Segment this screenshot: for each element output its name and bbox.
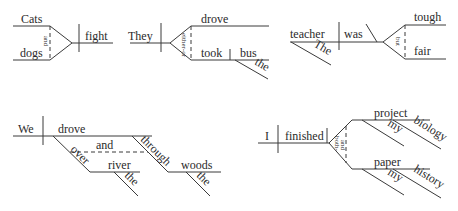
word-and: and <box>42 36 50 47</box>
fork-bottom <box>50 43 72 60</box>
complement-slash <box>366 24 377 42</box>
word-we: We <box>18 122 34 136</box>
word-i: I <box>265 129 269 143</box>
diagram-cats-dogs-fight: Cats dogs and fight <box>13 12 113 60</box>
word-fair: fair <box>414 44 431 58</box>
word-tough: tough <box>414 10 441 24</box>
word-was: was <box>344 27 363 41</box>
fork-top <box>50 26 72 43</box>
word-drove: drove <box>201 12 228 26</box>
word-over: over <box>68 142 93 167</box>
word-drove: drove <box>58 122 85 136</box>
word-either-or: either-or <box>180 33 188 58</box>
diagram-teacher-tough-fair: teacher The was but tough fair <box>290 10 446 65</box>
sentence-diagrams: Cats dogs and fight They either-or drove… <box>0 0 458 211</box>
word-took: took <box>201 46 222 60</box>
word-biology: biology <box>411 113 450 144</box>
word-and: and <box>96 138 113 152</box>
word-cats: Cats <box>21 12 43 26</box>
word-fight: fight <box>85 29 108 43</box>
word-and: and <box>339 140 347 151</box>
word-finished: finished <box>285 129 324 143</box>
diagram-they-drove-took: They either-or drove took bus the <box>128 12 272 79</box>
word-woods: woods <box>181 158 213 172</box>
diagram-we-drove-river-woods: We drove and over river the through wood… <box>13 116 221 196</box>
word-river: river <box>108 158 131 172</box>
word-they: They <box>128 29 153 43</box>
word-through: through <box>138 132 174 168</box>
diagram-i-finished-project-paper: I finished both- and project my biology … <box>258 106 450 198</box>
word-history: history <box>411 162 447 192</box>
word-but: but <box>394 37 402 46</box>
word-bus: bus <box>240 46 257 60</box>
word-dogs: dogs <box>20 46 43 60</box>
